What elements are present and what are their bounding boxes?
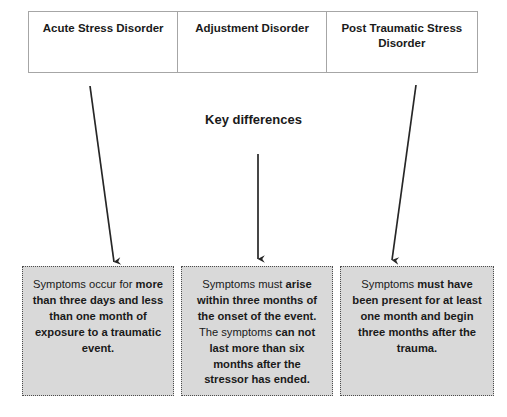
disorder-header-table: Acute Stress Disorder Adjustment Disorde… bbox=[28, 11, 478, 73]
header-label-acute-stress-disorder: Acute Stress Disorder bbox=[43, 22, 164, 34]
detail-text-acute-stress-disorder: Symptoms occur for more than three days … bbox=[32, 277, 164, 357]
detail-plain-adjustment-2: The symptoms bbox=[199, 326, 275, 338]
detail-text-post-traumatic-stress-disorder: Symptoms must have been present for at l… bbox=[350, 277, 484, 357]
header-cell-adjustment-disorder: Adjustment Disorder bbox=[178, 12, 326, 72]
detail-plain-acute: Symptoms occur for bbox=[33, 278, 136, 290]
detail-text-adjustment-disorder: Symptoms must arise within three months … bbox=[191, 277, 323, 388]
key-differences-title: Key differences bbox=[0, 112, 507, 127]
header-cell-post-traumatic-stress-disorder: Post Traumatic Stress Disorder bbox=[327, 12, 477, 72]
detail-box-adjustment-disorder: Symptoms must arise within three months … bbox=[181, 266, 333, 396]
detail-plain-ptsd: Symptoms bbox=[361, 278, 417, 290]
header-label-post-traumatic-stress-disorder: Post Traumatic Stress Disorder bbox=[341, 22, 462, 49]
header-label-adjustment-disorder: Adjustment Disorder bbox=[195, 22, 309, 34]
detail-plain-adjustment-1: Symptoms must bbox=[202, 278, 285, 290]
detail-box-acute-stress-disorder: Symptoms occur for more than three days … bbox=[22, 266, 174, 396]
header-cell-acute-stress-disorder: Acute Stress Disorder bbox=[29, 12, 178, 72]
diagram-canvas: Acute Stress Disorder Adjustment Disorde… bbox=[0, 0, 507, 417]
detail-box-post-traumatic-stress-disorder: Symptoms must have been present for at l… bbox=[340, 266, 494, 396]
